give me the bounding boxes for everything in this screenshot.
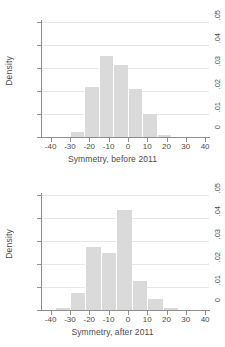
x-axis-title: Symmetry, after 2011	[0, 327, 225, 337]
y-tick-label: .01	[214, 102, 222, 112]
bar-series	[41, 195, 209, 310]
y-tick	[37, 195, 41, 196]
histogram-bar	[113, 65, 127, 137]
x-tick-label: 40	[201, 315, 210, 324]
y-tick-label: .05	[214, 10, 222, 20]
histogram-bar	[101, 253, 116, 310]
histogram-bar	[70, 293, 85, 310]
y-tick	[37, 287, 41, 288]
y-tick-label: .03	[214, 229, 222, 239]
x-tick-label: 20	[162, 315, 171, 324]
y-tick	[37, 137, 41, 138]
x-tick-label: -20	[83, 142, 95, 151]
x-tick-label: -40	[45, 142, 57, 151]
y-tick-label: .05	[214, 183, 222, 193]
histogram-bar	[116, 210, 131, 310]
histogram-bar	[142, 114, 156, 137]
histogram-bar	[85, 247, 100, 310]
chart-panel-2: 0.01.02.03.04.05Density-40-30-20-1001020…	[0, 173, 225, 346]
y-axis-title: Density	[4, 229, 14, 259]
x-axis-line	[40, 310, 210, 311]
histogram-bar	[99, 56, 113, 137]
histogram-bar	[84, 87, 98, 137]
chart-panel-1: 0.01.02.03.04.05Density-40-30-20-1001020…	[0, 0, 225, 173]
y-tick	[37, 218, 41, 219]
y-tick-label: .02	[214, 252, 222, 262]
y-axis-title: Density	[4, 56, 14, 86]
y-tick	[37, 310, 41, 311]
x-tick-label: 10	[143, 315, 152, 324]
y-tick-label: .02	[214, 79, 222, 89]
y-tick-label: 0	[214, 125, 222, 129]
y-tick-label: .03	[214, 56, 222, 66]
y-tick	[37, 45, 41, 46]
x-tick-label: 30	[181, 315, 190, 324]
x-tick-label: 40	[201, 142, 210, 151]
histogram-figure: 0.01.02.03.04.05Density-40-30-20-1001020…	[0, 0, 225, 346]
x-tick-label: 10	[143, 142, 152, 151]
x-tick-label: -20	[83, 315, 95, 324]
y-tick	[37, 68, 41, 69]
y-tick	[37, 91, 41, 92]
y-tick-label: .01	[214, 275, 222, 285]
x-tick-label: -30	[64, 315, 76, 324]
x-tick-label: 20	[162, 142, 171, 151]
y-tick	[37, 241, 41, 242]
x-tick-label: -40	[45, 315, 57, 324]
y-axis-line	[41, 193, 42, 311]
x-tick-label: 30	[181, 142, 190, 151]
x-tick-label: -10	[103, 315, 115, 324]
y-tick	[37, 264, 41, 265]
x-axis-line	[40, 137, 210, 138]
x-tick-label: -10	[103, 142, 115, 151]
x-axis-title: Symmetry, before 2011	[0, 154, 225, 164]
y-tick-label: .04	[214, 206, 222, 216]
x-tick-label: 0	[126, 315, 130, 324]
y-tick	[37, 114, 41, 115]
x-tick-label: -30	[64, 142, 76, 151]
x-tick-label: 0	[126, 142, 130, 151]
histogram-bar	[128, 89, 142, 137]
histogram-bar	[132, 281, 147, 310]
y-tick-label: 0	[214, 298, 222, 302]
y-tick	[37, 22, 41, 23]
histogram-bar	[147, 299, 162, 310]
y-tick-label: .04	[214, 33, 222, 43]
y-axis-line	[41, 20, 42, 138]
bar-series	[41, 22, 209, 137]
